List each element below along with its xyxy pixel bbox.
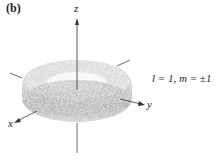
y-arrow-icon	[138, 101, 145, 106]
x-axis-label: x	[8, 117, 13, 129]
y-axis-back	[10, 73, 22, 78]
x-arrow-icon	[14, 118, 21, 123]
x-axis-front	[17, 111, 37, 121]
y-axis-label: y	[147, 98, 152, 110]
z-axis-label: z	[74, 2, 78, 14]
quantum-numbers-caption: l = 1, m = ±1	[152, 72, 211, 84]
z-arrow-icon	[75, 18, 79, 25]
x-axis-back	[117, 60, 130, 66]
panel-label: (b)	[6, 1, 21, 16]
